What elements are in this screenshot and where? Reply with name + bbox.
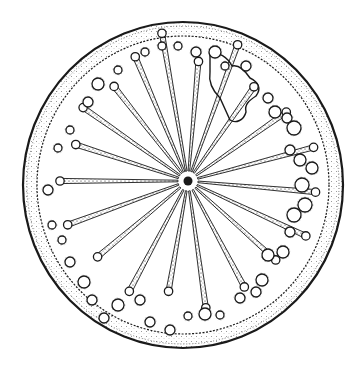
pore <box>191 47 201 57</box>
pore <box>141 48 149 56</box>
ray-terminal-bulb <box>64 221 72 229</box>
ray-terminal-bulb <box>110 82 118 90</box>
pore <box>298 198 312 212</box>
pore <box>87 295 97 305</box>
pore <box>58 236 66 244</box>
pore <box>48 221 56 229</box>
pore <box>145 317 155 327</box>
pore <box>99 313 109 323</box>
diatom-drawing <box>0 0 354 372</box>
ray-terminal-bulb <box>309 143 317 151</box>
pore <box>165 325 175 335</box>
ray-terminal-bulb <box>125 287 133 295</box>
inner-rim <box>37 36 329 334</box>
pore <box>54 144 62 152</box>
pore <box>306 162 318 174</box>
pore <box>66 126 74 134</box>
ray-terminal-bulb <box>194 57 202 65</box>
ray-terminal-bulb <box>240 283 248 291</box>
pore <box>277 246 289 258</box>
pore <box>282 113 292 123</box>
pore <box>43 185 53 195</box>
central-node-dot <box>184 177 193 186</box>
pore <box>135 295 145 305</box>
pore <box>263 93 273 103</box>
ray-terminal-bulb <box>56 177 64 185</box>
pore <box>241 61 251 71</box>
ray-terminal-bulb <box>302 232 310 240</box>
ray-terminal-bulb <box>158 29 166 37</box>
pore <box>112 299 124 311</box>
pore <box>184 312 192 320</box>
pore <box>251 287 261 297</box>
ray-terminal-bulb <box>131 53 139 61</box>
pore <box>174 42 182 50</box>
pore <box>256 274 268 286</box>
ray-terminal-bulb <box>233 41 241 49</box>
pore <box>92 78 104 90</box>
pore <box>294 154 306 166</box>
pore <box>235 293 245 303</box>
pore <box>209 46 221 58</box>
pore <box>199 308 211 320</box>
pore <box>295 178 309 192</box>
central-node <box>184 177 193 186</box>
ray-terminal-bulb <box>93 253 101 261</box>
pore <box>216 311 224 319</box>
pore <box>158 42 166 50</box>
diatom-illustration <box>0 0 354 372</box>
pore <box>114 66 122 74</box>
pore <box>221 62 229 70</box>
pore <box>269 106 281 118</box>
pore <box>78 276 90 288</box>
ray-terminal-bulb <box>164 287 172 295</box>
pore <box>65 257 75 267</box>
pore <box>262 249 274 261</box>
ray-terminal-bulb <box>311 188 319 196</box>
pore <box>285 227 295 237</box>
ray-terminal-bulb <box>250 83 258 91</box>
pore <box>285 145 295 155</box>
ray-terminal-bulb <box>72 140 80 148</box>
pore <box>83 97 93 107</box>
